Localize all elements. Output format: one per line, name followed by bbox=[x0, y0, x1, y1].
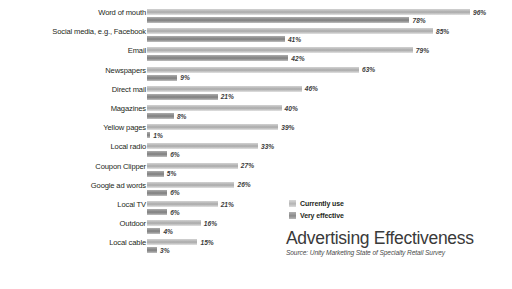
bar-currently-use bbox=[147, 182, 234, 188]
advertising-effectiveness-chart: Word of mouth96%78%Social media, e.g., F… bbox=[0, 0, 512, 289]
legend-swatch-currently-use bbox=[289, 200, 296, 207]
bar-value-very-effective: 6% bbox=[170, 189, 180, 196]
bar-currently-use bbox=[147, 47, 413, 53]
bar-value-very-effective: 5% bbox=[167, 170, 177, 177]
bar-very-effective bbox=[147, 247, 157, 253]
chart-row: Email79%42% bbox=[0, 46, 512, 65]
bar-currently-use bbox=[147, 86, 302, 92]
bar-value-very-effective: 8% bbox=[177, 113, 187, 120]
bar-value-very-effective: 3% bbox=[160, 247, 170, 254]
chart-row: Magazines40%8% bbox=[0, 104, 512, 123]
bar-value-very-effective: 9% bbox=[180, 74, 190, 81]
legend-item-very-effective: Very effective bbox=[289, 210, 344, 220]
bar-currently-use bbox=[147, 220, 201, 226]
bar-group: 40%8% bbox=[147, 104, 512, 123]
bar-currently-use bbox=[147, 143, 258, 149]
bar-very-effective bbox=[147, 36, 285, 42]
bar-currently-use bbox=[147, 67, 359, 73]
chart-legend: Currently use Very effective bbox=[289, 198, 344, 222]
bar-value-currently-use: 40% bbox=[285, 105, 298, 112]
bar-value-very-effective: 6% bbox=[170, 209, 180, 216]
chart-row: Google ad words26%6% bbox=[0, 181, 512, 200]
bar-value-very-effective: 4% bbox=[163, 228, 173, 235]
chart-row: Local radio33%6% bbox=[0, 142, 512, 161]
bar-value-currently-use: 21% bbox=[221, 201, 234, 208]
bar-currently-use bbox=[147, 239, 197, 245]
bar-very-effective bbox=[147, 171, 164, 177]
chart-title: Advertising Effectiveness bbox=[286, 228, 474, 248]
bar-value-very-effective: 1% bbox=[153, 132, 163, 139]
category-label: Yellow pages bbox=[0, 123, 146, 132]
chart-row: Yellow pages39%1% bbox=[0, 123, 512, 142]
chart-row: Word of mouth96%78% bbox=[0, 8, 512, 27]
chart-row: Newspapers63%9% bbox=[0, 66, 512, 85]
bar-very-effective bbox=[147, 55, 288, 61]
bar-value-currently-use: 96% bbox=[473, 9, 486, 16]
bar-value-very-effective: 42% bbox=[291, 55, 304, 62]
category-label: Social media, e.g., Facebook bbox=[0, 27, 146, 36]
legend-label-very-effective: Very effective bbox=[300, 212, 344, 219]
bar-value-currently-use: 26% bbox=[237, 181, 250, 188]
category-label: Email bbox=[0, 46, 146, 55]
category-label: Magazines bbox=[0, 104, 146, 113]
bar-very-effective bbox=[147, 17, 409, 23]
bar-very-effective bbox=[147, 113, 174, 119]
bar-currently-use bbox=[147, 28, 433, 34]
bar-very-effective bbox=[147, 228, 160, 234]
chart-row: Local TV21%6% bbox=[0, 200, 512, 219]
category-label: Local radio bbox=[0, 142, 146, 151]
bar-value-very-effective: 41% bbox=[288, 36, 301, 43]
category-label: Outdoor bbox=[0, 219, 146, 228]
bar-very-effective bbox=[147, 151, 167, 157]
bar-currently-use bbox=[147, 105, 282, 111]
bar-value-very-effective: 6% bbox=[170, 151, 180, 158]
bar-very-effective bbox=[147, 209, 167, 215]
category-label: Direct mail bbox=[0, 85, 146, 94]
bar-group: 63%9% bbox=[147, 66, 512, 85]
bar-currently-use bbox=[147, 124, 278, 130]
legend-item-currently-use: Currently use bbox=[289, 198, 344, 208]
bar-value-currently-use: 27% bbox=[241, 162, 254, 169]
bar-group: 33%6% bbox=[147, 142, 512, 161]
bar-group: 79%42% bbox=[147, 46, 512, 65]
legend-label-currently-use: Currently use bbox=[300, 200, 344, 207]
category-label: Coupon Clipper bbox=[0, 162, 146, 171]
bar-value-currently-use: 16% bbox=[204, 220, 217, 227]
bar-currently-use bbox=[147, 9, 470, 15]
title-block: Advertising Effectiveness Source: Unity … bbox=[286, 228, 474, 257]
bar-value-currently-use: 46% bbox=[305, 85, 318, 92]
bar-currently-use bbox=[147, 201, 218, 207]
bar-value-currently-use: 33% bbox=[261, 143, 274, 150]
bar-value-currently-use: 63% bbox=[362, 66, 375, 73]
bar-value-currently-use: 15% bbox=[200, 239, 213, 246]
chart-row: Coupon Clipper27%5% bbox=[0, 162, 512, 181]
bar-value-currently-use: 85% bbox=[436, 28, 449, 35]
chart-source-note: Source: Unity Marketing State of Special… bbox=[286, 249, 474, 257]
bar-currently-use bbox=[147, 163, 238, 169]
category-label: Google ad words bbox=[0, 181, 146, 190]
bar-group: 27%5% bbox=[147, 162, 512, 181]
bar-very-effective bbox=[147, 94, 218, 100]
bar-group: 96%78% bbox=[147, 8, 512, 27]
category-label: Newspapers bbox=[0, 66, 146, 75]
bar-value-currently-use: 39% bbox=[281, 124, 294, 131]
category-label: Local TV bbox=[0, 200, 146, 209]
bar-group: 39%1% bbox=[147, 123, 512, 142]
bar-group: 26%6% bbox=[147, 181, 512, 200]
bar-very-effective bbox=[147, 75, 177, 81]
bar-group: 85%41% bbox=[147, 27, 512, 46]
chart-row: Direct mail46%21% bbox=[0, 85, 512, 104]
category-label: Word of mouth bbox=[0, 8, 146, 17]
bar-group: 46%21% bbox=[147, 85, 512, 104]
bar-very-effective bbox=[147, 190, 167, 196]
bar-value-very-effective: 21% bbox=[221, 93, 234, 100]
legend-swatch-very-effective bbox=[289, 212, 296, 219]
category-label: Local cable bbox=[0, 238, 146, 247]
bar-value-very-effective: 78% bbox=[412, 17, 425, 24]
bar-very-effective bbox=[147, 132, 150, 138]
bar-value-currently-use: 79% bbox=[416, 47, 429, 54]
chart-row: Social media, e.g., Facebook85%41% bbox=[0, 27, 512, 46]
